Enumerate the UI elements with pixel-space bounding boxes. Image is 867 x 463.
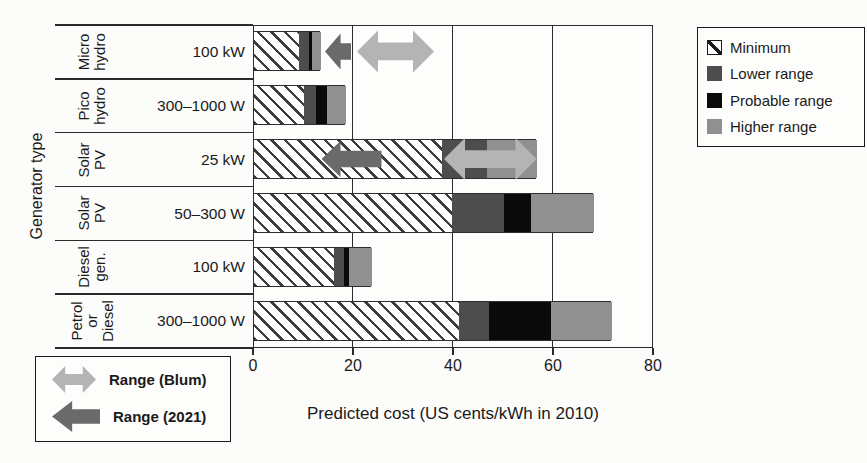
group-label-line: PV — [92, 203, 108, 223]
bar-segment-probable — [504, 194, 531, 232]
arrow-legend-entry-blum: Range (Blum) — [52, 366, 230, 393]
x-tick — [352, 348, 354, 355]
stacked-bar-row-4 — [253, 193, 593, 233]
bar-segment-higher — [312, 32, 321, 70]
x-tick — [252, 348, 254, 355]
legend-entry-lower-range: Lower range — [707, 65, 864, 82]
gridline-20 — [352, 26, 354, 347]
category-size-label: 100 kW — [113, 240, 245, 294]
group-label-line: Solar — [76, 142, 92, 177]
category-size-label: 300–1000 W — [113, 79, 245, 133]
group-label-line: gen. — [92, 253, 108, 282]
double-arrow-icon — [52, 366, 96, 393]
group-label-line: Solar — [76, 196, 92, 231]
stacked-bar-row-1 — [253, 31, 320, 71]
x-tick-label: 60 — [529, 357, 577, 375]
arrow-legend-label: Range (Blum) — [109, 371, 207, 388]
legend-entry-probable-range: Probable range — [707, 92, 864, 109]
legend-entry-minimum: Minimum — [707, 39, 864, 56]
left-arrow-icon — [52, 401, 100, 432]
bar-segment-minimum — [254, 194, 452, 232]
group-label-line: Diesel — [76, 246, 92, 288]
bar-segment-lower — [452, 194, 504, 232]
legend-box: Minimum Lower range Probable range Highe… — [697, 27, 865, 147]
higher-range-swatch-icon — [707, 119, 722, 134]
bar-segment-minimum — [254, 32, 299, 70]
arrow-legend-label: Range (2021) — [113, 408, 206, 425]
bar-segment-higher — [349, 248, 372, 286]
bar-segment-higher — [531, 194, 594, 232]
stacked-bar-row-2 — [253, 85, 345, 125]
bar-segment-minimum — [254, 86, 304, 124]
bar-segment-higher — [551, 302, 612, 340]
range-2021-arrow — [325, 33, 351, 69]
probable-range-swatch-icon — [707, 93, 722, 108]
gridline-40 — [452, 26, 454, 347]
x-tick — [552, 348, 554, 355]
chart-figure: Generator type Microhydro100 kWPicohydro… — [0, 0, 867, 463]
x-tick-label: 20 — [329, 357, 377, 375]
bar-segment-minimum — [254, 302, 459, 340]
plot-area — [253, 25, 653, 348]
bar-segment-higher — [327, 86, 346, 124]
group-label-line: Pico — [76, 91, 92, 120]
legend-label: Lower range — [730, 65, 813, 82]
range-blum-arrow — [357, 30, 434, 72]
legend-label: Minimum — [730, 39, 791, 56]
category-label-area: Microhydro100 kWPicohydro300–1000 WSolar… — [55, 25, 253, 348]
hatch-swatch-icon — [707, 40, 722, 55]
group-label-line: Micro — [76, 34, 92, 71]
legend-label: Higher range — [730, 118, 817, 135]
group-label-line: PV — [92, 150, 108, 170]
stacked-bar-row-5 — [253, 247, 371, 287]
x-tick — [652, 348, 654, 355]
bar-segment-probable — [489, 302, 551, 340]
bar-segment-lower — [459, 302, 489, 340]
group-label-line: Petrol — [69, 301, 85, 340]
stacked-bar-row-6 — [253, 301, 611, 341]
group-label-line: hydro — [92, 87, 108, 125]
lower-range-swatch-icon — [707, 66, 722, 81]
category-size-label: 100 kW — [113, 25, 245, 79]
group-label-line: or — [84, 314, 100, 327]
y-axis-title: Generator type — [28, 106, 48, 266]
category-size-label: 50–300 W — [113, 187, 245, 241]
bar-segment-lower — [304, 86, 316, 124]
category-size-label: 25 kW — [113, 133, 245, 187]
bar-segment-lower — [299, 32, 309, 70]
arrow-legend-box: Range (Blum) Range (2021) — [35, 356, 231, 442]
legend-label: Probable range — [730, 92, 833, 109]
x-tick-label: 40 — [429, 357, 477, 375]
x-tick-label: 0 — [229, 357, 277, 375]
bar-segment-minimum — [254, 248, 334, 286]
legend-entry-higher-range: Higher range — [707, 118, 864, 135]
gridline-60 — [552, 26, 554, 347]
x-axis-title: Predicted cost (US cents/kWh in 2010) — [253, 404, 653, 424]
bar-segment-probable — [316, 86, 327, 124]
category-group-label: PetrolorDiesel — [65, 289, 119, 353]
arrow-legend-entry-2021: Range (2021) — [52, 401, 230, 432]
category-size-label: 300–1000 W — [113, 294, 245, 348]
x-tick-label: 80 — [629, 357, 677, 375]
bar-segment-lower — [334, 248, 344, 286]
group-label-line: hydro — [92, 33, 108, 71]
x-tick — [452, 348, 454, 355]
